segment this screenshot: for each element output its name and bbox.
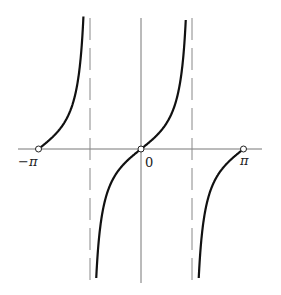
plot-canvas: −π 0 π [0,0,281,295]
tangent-branch-1 [39,16,84,149]
tangent-branch-3 [199,149,244,278]
open-point-1 [36,146,42,152]
tick-label-neg-pi: −π [18,154,38,169]
open-point-2 [138,146,144,152]
open-point-3 [240,146,246,152]
tangent-plot: −π 0 π [0,0,281,295]
tick-label-zero: 0 [145,155,153,170]
tick-label-pi: π [239,153,249,168]
